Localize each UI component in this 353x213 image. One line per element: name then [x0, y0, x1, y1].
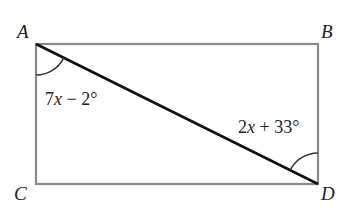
vertex-label-b: B	[321, 21, 333, 42]
angle-arc-d	[290, 153, 318, 170]
angle-label-a: 7x − 2°	[45, 89, 97, 109]
vertex-label-c: C	[14, 183, 27, 204]
diagonal-ad	[36, 44, 318, 184]
vertex-label-d: D	[320, 183, 335, 204]
angle-arc-a	[36, 58, 64, 75]
angle-label-d: 2x + 33°	[238, 117, 299, 137]
vertex-label-a: A	[15, 21, 29, 42]
geometry-figure: A B C D 7x − 2° 2x + 33°	[0, 0, 353, 213]
